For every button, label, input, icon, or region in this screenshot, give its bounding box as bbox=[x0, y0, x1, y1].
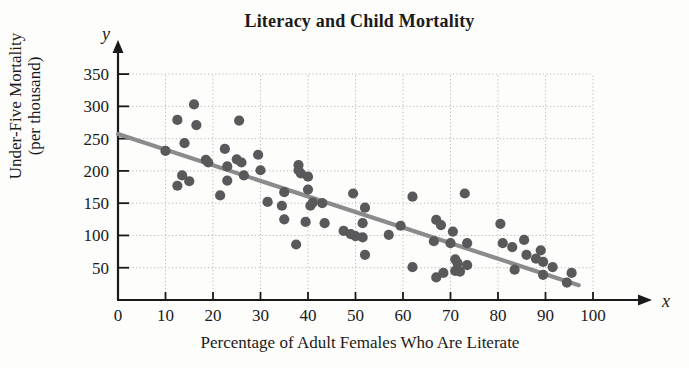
data-point bbox=[407, 262, 417, 272]
data-point bbox=[498, 238, 508, 248]
data-point bbox=[239, 170, 249, 180]
x-tick-label: 20 bbox=[205, 306, 222, 325]
data-point bbox=[301, 217, 311, 227]
data-point bbox=[277, 201, 287, 211]
tick-labels: 0102030405060708090100501001502002503003… bbox=[84, 65, 606, 325]
y-axis-letter: y bbox=[100, 24, 110, 44]
data-point bbox=[172, 181, 182, 191]
data-point bbox=[538, 270, 548, 280]
x-axis-arrowhead bbox=[638, 295, 652, 306]
y-tick-label: 300 bbox=[84, 97, 110, 116]
data-point bbox=[303, 185, 313, 195]
data-point bbox=[358, 232, 368, 242]
data-point bbox=[384, 230, 394, 240]
x-tick-label: 10 bbox=[157, 306, 174, 325]
data-point bbox=[462, 260, 472, 270]
data-point bbox=[279, 214, 289, 224]
data-point bbox=[320, 218, 330, 228]
x-tick-label: 80 bbox=[490, 306, 507, 325]
data-point bbox=[160, 146, 170, 156]
y-tick-label: 50 bbox=[92, 259, 109, 278]
x-tick-label: 0 bbox=[114, 306, 123, 325]
data-point bbox=[429, 236, 439, 246]
x-axis-letter: x bbox=[661, 291, 670, 311]
data-point bbox=[360, 203, 370, 213]
data-point bbox=[445, 238, 455, 248]
data-point bbox=[308, 197, 318, 207]
data-point bbox=[215, 190, 225, 200]
data-point bbox=[317, 198, 327, 208]
y-tick-label: 200 bbox=[84, 162, 110, 181]
data-point bbox=[189, 99, 199, 109]
data-point bbox=[220, 144, 230, 154]
x-tick-label: 100 bbox=[580, 306, 606, 325]
x-tick-label: 30 bbox=[252, 306, 269, 325]
y-tick-label: 350 bbox=[84, 65, 110, 84]
axes bbox=[113, 40, 653, 306]
y-tick-label: 100 bbox=[84, 226, 110, 245]
data-point bbox=[184, 176, 194, 186]
data-point bbox=[562, 277, 572, 287]
data-point bbox=[438, 268, 448, 278]
data-point bbox=[519, 235, 529, 245]
data-point bbox=[263, 197, 273, 207]
data-point bbox=[436, 220, 446, 230]
data-point bbox=[203, 157, 213, 167]
data-point bbox=[507, 242, 517, 252]
data-point bbox=[255, 165, 265, 175]
data-point bbox=[253, 150, 263, 160]
data-point bbox=[548, 262, 558, 272]
data-point bbox=[236, 157, 246, 167]
data-point bbox=[460, 188, 470, 198]
data-point bbox=[448, 226, 458, 236]
data-point bbox=[536, 245, 546, 255]
x-tick-label: 60 bbox=[395, 306, 412, 325]
x-tick-label: 40 bbox=[300, 306, 317, 325]
y-axis-arrowhead bbox=[113, 40, 124, 53]
data-point bbox=[358, 218, 368, 228]
y-tick-label: 150 bbox=[84, 194, 110, 213]
data-point bbox=[222, 161, 232, 171]
data-point bbox=[567, 268, 577, 278]
data-point bbox=[191, 120, 201, 130]
data-point bbox=[291, 239, 301, 249]
data-points bbox=[160, 99, 576, 287]
data-point bbox=[462, 238, 472, 248]
scatter-plot: 0102030405060708090100501001502002503003… bbox=[0, 0, 689, 368]
data-point bbox=[521, 250, 531, 260]
data-point bbox=[495, 219, 505, 229]
data-point bbox=[222, 175, 232, 185]
data-point bbox=[279, 187, 289, 197]
data-point bbox=[510, 265, 520, 275]
data-point bbox=[348, 188, 358, 198]
x-tick-label: 70 bbox=[442, 306, 459, 325]
trend-line bbox=[118, 134, 579, 285]
data-point bbox=[172, 115, 182, 125]
data-point bbox=[538, 257, 548, 267]
data-point bbox=[303, 172, 313, 182]
data-point bbox=[360, 250, 370, 260]
trend-line-segment bbox=[118, 134, 579, 285]
data-point bbox=[407, 192, 417, 202]
chart-figure: Literacy and Child Mortality Under-Five … bbox=[0, 0, 689, 368]
y-tick-label: 250 bbox=[84, 130, 110, 149]
data-point bbox=[396, 221, 406, 231]
data-point bbox=[234, 115, 244, 125]
data-point bbox=[179, 138, 189, 148]
x-tick-label: 90 bbox=[537, 306, 554, 325]
x-tick-label: 50 bbox=[347, 306, 364, 325]
